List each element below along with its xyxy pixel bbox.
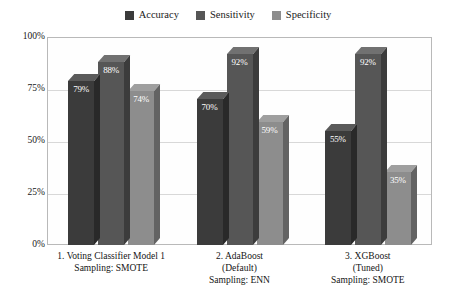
legend-label: Specificity — [286, 10, 332, 21]
legend-swatch-icon — [196, 11, 205, 20]
bar-front-face — [68, 81, 94, 245]
bar-value-label: 55% — [325, 135, 351, 144]
bar-specificity-group-3: 35% — [385, 172, 411, 245]
x-axis-label-line: 2. AdaBoost — [175, 250, 303, 262]
bar-front-face — [257, 122, 283, 245]
bar-front-face — [98, 62, 124, 245]
chart-legend: AccuracySensitivitySpecificity — [0, 10, 456, 21]
x-axis-label-line: Sampling: SMOTE — [47, 262, 175, 274]
x-axis-label-line: 3. XGBoost — [304, 250, 432, 262]
bar-top-face — [325, 124, 357, 131]
y-axis-tick-label: 0% — [1, 240, 45, 250]
x-axis-label-group-1: 1. Voting Classifier Model 1Sampling: SM… — [47, 250, 175, 274]
bar-side-face — [154, 84, 160, 245]
bar-front-face — [355, 54, 381, 245]
bar-side-face — [253, 47, 259, 245]
bar-top-face — [227, 47, 259, 54]
bar-sensitivity-group-2: 92% — [227, 54, 253, 245]
x-axis-label-line: (Default) — [175, 262, 303, 274]
y-axis-tick-label: 50% — [1, 136, 45, 146]
x-axis-label-line: Sampling: ENN — [175, 274, 303, 286]
y-axis-tick-label: 75% — [1, 84, 45, 94]
bar-side-face — [381, 47, 387, 245]
bars-layer: 79%88%74%70%92%59%55%92%35% — [47, 37, 432, 245]
bar-side-face — [124, 55, 130, 245]
x-axis-label-line: 1. Voting Classifier Model 1 — [47, 250, 175, 262]
legend-entry-sensitivity: Sensitivity — [196, 10, 255, 21]
bar-side-face — [351, 124, 357, 245]
bar-front-face — [325, 131, 351, 245]
bar-front-face — [197, 99, 223, 245]
bar-value-label: 70% — [197, 103, 223, 112]
bar-specificity-group-2: 59% — [257, 122, 283, 245]
legend-entry-accuracy: Accuracy — [125, 10, 179, 21]
y-axis-tick-label: 25% — [1, 188, 45, 198]
bar-value-label: 92% — [227, 58, 253, 67]
legend-swatch-icon — [272, 11, 281, 20]
bar-front-face — [227, 54, 253, 245]
bar-value-label: 35% — [385, 176, 411, 185]
y-axis-tick-label: 100% — [1, 32, 45, 42]
y-axis: 100%75%50%25%0% — [0, 37, 45, 245]
bar-value-label: 88% — [98, 66, 124, 75]
bar-value-label: 92% — [355, 58, 381, 67]
legend-label: Sensitivity — [210, 10, 255, 21]
bar-sensitivity-group-3: 92% — [355, 54, 381, 245]
x-axis-label-line: Sampling: SMOTE — [304, 274, 432, 286]
x-axis-label-group-2: 2. AdaBoost(Default)Sampling: ENN — [175, 250, 303, 286]
legend-swatch-icon — [125, 11, 134, 20]
bar-value-label: 79% — [68, 85, 94, 94]
bar-value-label: 74% — [128, 95, 154, 104]
bar-side-face — [94, 74, 100, 245]
legend-entry-specificity: Specificity — [272, 10, 332, 21]
x-axis-labels: 1. Voting Classifier Model 1Sampling: SM… — [47, 250, 432, 300]
legend-label: Accuracy — [139, 10, 179, 21]
bar-sensitivity-group-1: 88% — [98, 62, 124, 245]
bar-side-face — [223, 93, 229, 245]
x-axis-label-group-3: 3. XGBoost(Tuned)Sampling: SMOTE — [304, 250, 432, 286]
bar-side-face — [283, 115, 289, 245]
bar-accuracy-group-1: 79% — [68, 81, 94, 245]
bar-front-face — [128, 91, 154, 245]
bar-accuracy-group-3: 55% — [325, 131, 351, 245]
bar-accuracy-group-2: 70% — [197, 99, 223, 245]
bar-side-face — [411, 165, 417, 245]
bar-value-label: 59% — [257, 126, 283, 135]
x-axis-label-line: (Tuned) — [304, 262, 432, 274]
bar-specificity-group-1: 74% — [128, 91, 154, 245]
